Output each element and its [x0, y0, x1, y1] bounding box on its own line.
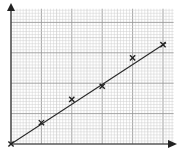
y-axis-arrow-icon: [7, 3, 15, 11]
graph-paper-grid: [11, 9, 174, 144]
scatter-chart: [0, 0, 179, 151]
